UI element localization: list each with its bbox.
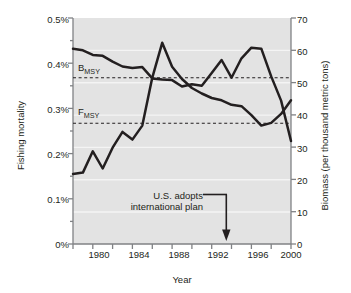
bmsy-label: BMSY [78, 62, 100, 76]
y-axis-ticks-right [291, 18, 296, 244]
annotation-text-line-1: U.S. adopts [98, 190, 203, 201]
chart-figure: Fishing mortality Biomass (per thousand … [0, 0, 351, 293]
fmsy-label: FMSY [78, 106, 99, 120]
annotation-text-line-2: international plan [98, 201, 203, 212]
plot-area [0, 0, 351, 293]
bmsy-label-sub: MSY [84, 67, 100, 76]
fmsy-label-sub: MSY [84, 111, 100, 120]
x-axis-ticks [73, 244, 291, 249]
y-axis-ticks-left [68, 18, 73, 244]
